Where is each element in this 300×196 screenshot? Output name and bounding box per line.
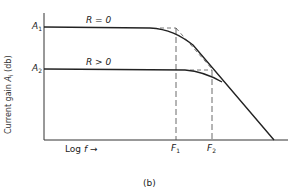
frequency-response-plot bbox=[0, 0, 300, 196]
a2-label: A2 bbox=[32, 64, 42, 74]
curve-r-positive bbox=[44, 69, 222, 82]
asymptote-r0 bbox=[176, 28, 212, 69]
arrow-right-icon: → bbox=[90, 144, 98, 154]
curve-r0 bbox=[44, 27, 274, 140]
x-axis-label: Log f → bbox=[65, 145, 98, 154]
f2-label: F2 bbox=[207, 144, 216, 154]
y-axis-label: Current gain Ai (db) bbox=[4, 55, 14, 134]
f1-label: F1 bbox=[171, 144, 180, 154]
figure-caption: (b) bbox=[143, 179, 156, 188]
r0-label: R = 0 bbox=[86, 16, 111, 25]
a1-label: A1 bbox=[32, 22, 42, 32]
r-positive-label: R > 0 bbox=[86, 58, 111, 67]
